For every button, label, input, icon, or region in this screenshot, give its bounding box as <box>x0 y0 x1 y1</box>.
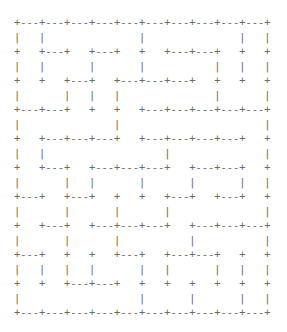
maze-line: + + +---+ +---+---+---+ + + + <box>14 73 270 88</box>
maze-line: | | | | | | | <box>14 59 270 74</box>
maze-line: | | | | <box>14 146 270 161</box>
maze-line: | | | | | <box>14 30 270 45</box>
maze-line: | | | | | <box>14 204 270 219</box>
maze-line: | | | | | | | <box>14 175 270 190</box>
maze-line: +---+---+---+---+---+---+---+---+---+---… <box>14 305 270 320</box>
maze-line: +---+ +---+ + + +---+ +---+ + <box>14 189 270 204</box>
maze-line: | | | <box>14 117 270 132</box>
maze-line: + +---+ +---+ + +---+---+ + + <box>14 44 270 59</box>
maze-line: +---+---+ + + +---+---+---+---+---+ <box>14 102 270 117</box>
maze-line: + + +---+---+ + + + + + + <box>14 276 270 291</box>
maze-line: + +---+ +---+---+---+ +---+---+ + <box>14 160 270 175</box>
maze-line: | | | | | | | | | <box>14 262 270 277</box>
ascii-maze: +---+---+---+---+---+---+---+---+---+---… <box>14 15 270 320</box>
maze-line: +---+---+---+---+---+---+---+---+---+---… <box>14 15 270 30</box>
maze-line: + +---+ +---+---+---+ +---+---+---+ <box>14 218 270 233</box>
maze-line: + +---+---+---+ +---+---+---+---+ + <box>14 131 270 146</box>
maze-line: | | | | | <box>14 291 270 306</box>
maze-line: +---+ + + +---+ +---+---+ + + <box>14 247 270 262</box>
maze-line: | | | | | | <box>14 88 270 103</box>
maze-line: | | | | | <box>14 233 270 248</box>
